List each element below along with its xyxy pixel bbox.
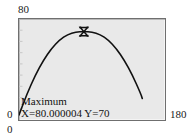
x-axis-max-label: 180 xyxy=(170,109,187,120)
annotation-block: Maximum X=80.000004 Y=70 xyxy=(21,95,109,119)
plot-area[interactable]: Maximum X=80.000004 Y=70 xyxy=(18,18,166,121)
y-axis-max-label: 80 xyxy=(18,4,29,15)
x-axis-min-label: 0 xyxy=(7,124,13,135)
y-axis-min-label: 0 xyxy=(7,109,13,120)
annotation-title: Maximum xyxy=(21,95,109,107)
annotation-readout: X=80.000004 Y=70 xyxy=(21,107,109,119)
chart-screenshot: 80 0 0 180 Maximum X=80.000004 Y=70 xyxy=(0,0,191,138)
